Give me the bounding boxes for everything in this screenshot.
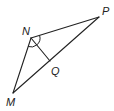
angle-arc-qnp [37,35,40,45]
angle-arc-mnq [28,45,37,47]
triangle-figure: N P M Q [0,0,114,111]
vertex-label-q: Q [51,65,60,77]
vertex-label-m: M [6,96,16,108]
vertex-label-n: N [22,25,30,37]
vertex-label-p: P [102,5,110,17]
segment-nq [31,38,50,61]
segment-np [31,17,99,38]
